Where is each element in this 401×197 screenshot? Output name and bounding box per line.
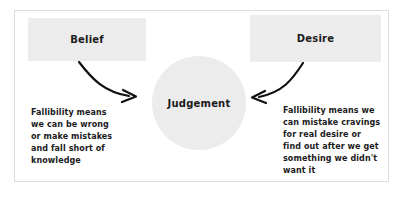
arrow-desire-to-judgement-icon [252, 63, 303, 103]
annotation-desire-fallibility: Fallibility means we can mistake craving… [283, 105, 393, 177]
diagram-canvas: Belief Desire Judgement Fallibility mean… [0, 0, 401, 197]
annotation-belief-fallibility: Fallibility means we can be wrong or mak… [31, 107, 143, 167]
arrow-belief-to-judgement-icon [79, 62, 136, 102]
